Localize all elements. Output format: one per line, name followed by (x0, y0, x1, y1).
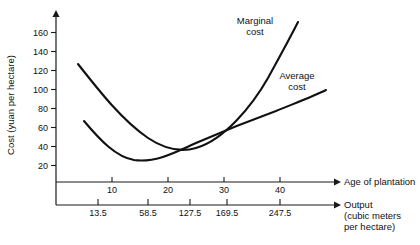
y-tick-label: 140 (33, 47, 48, 57)
x-output-tick-label: 247.5 (269, 208, 292, 218)
y-axis-ticks (51, 33, 56, 166)
x-axis-age-tick-labels: 10 20 30 40 (107, 185, 285, 195)
x-axis-output-title-line3: per hectare) (344, 221, 395, 232)
y-tick-label: 80 (38, 104, 48, 114)
y-tick-label: 20 (38, 161, 48, 171)
marginal-cost-label-line1: Marginal (237, 15, 273, 26)
x-output-tick-label: 58.5 (139, 208, 157, 218)
y-tick-label: 100 (33, 85, 48, 95)
cost-curves-chart: 20 40 60 80 100 120 140 160 10 20 30 40 (0, 0, 420, 245)
x-age-tick-label: 20 (163, 185, 173, 195)
x-axis-age-title: Age of plantation (344, 176, 415, 187)
x-axis-output-title-line1: Output (344, 199, 373, 210)
average-cost-label-line1: Average (279, 70, 314, 81)
x-output-tick-label: 13.5 (89, 208, 107, 218)
x-age-tick-label: 30 (219, 185, 229, 195)
x-axis-output-tick-labels: 13.5 58.5 127.5 169.5 247.5 (89, 208, 291, 218)
x-axis-age-ticks (112, 177, 280, 182)
average-cost-label: Average cost (279, 70, 314, 92)
y-axis-title: Cost (yuan per hectare) (5, 55, 16, 155)
marginal-cost-curve (78, 22, 298, 150)
x-output-tick-label: 169.5 (216, 208, 239, 218)
x-axis-output-ticks (98, 199, 280, 205)
y-tick-label: 60 (38, 123, 48, 133)
y-tick-label: 120 (33, 66, 48, 76)
y-tick-label: 40 (38, 142, 48, 152)
average-cost-curve (84, 90, 326, 161)
average-cost-label-line2: cost (288, 81, 306, 92)
x-axis-output-title-line2: (cubic meters (344, 210, 401, 221)
y-tick-label: 160 (33, 28, 48, 38)
marginal-cost-label: Marginal cost (237, 15, 273, 37)
x-age-tick-label: 40 (275, 185, 285, 195)
x-age-tick-label: 10 (107, 185, 117, 195)
x-output-tick-label: 127.5 (179, 208, 202, 218)
chart-canvas: 20 40 60 80 100 120 140 160 10 20 30 40 (0, 0, 420, 245)
marginal-cost-label-line2: cost (246, 26, 264, 37)
y-axis-tick-labels: 20 40 60 80 100 120 140 160 (33, 28, 48, 171)
